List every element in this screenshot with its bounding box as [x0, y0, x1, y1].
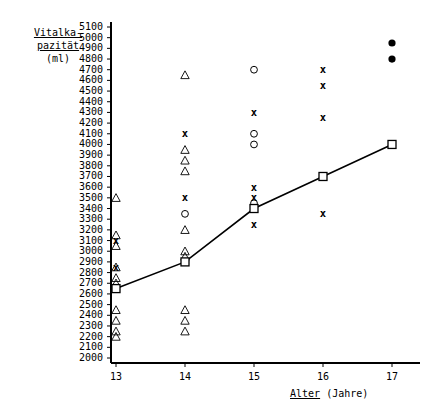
marker-circle	[251, 141, 258, 148]
marker-triangle	[112, 332, 120, 340]
marker-circle	[251, 66, 258, 73]
marker-mean-line	[319, 172, 327, 180]
marker-cross: x	[320, 63, 327, 75]
marker-triangle	[181, 146, 189, 154]
marker-mean-line	[388, 140, 396, 148]
marker-triangle	[112, 306, 120, 314]
marker-filled-dot	[388, 39, 395, 46]
marker-triangle	[112, 316, 120, 324]
scatter-plot-canvas: xxxxxxxxxxxx	[0, 0, 428, 416]
axis-tick-marks	[107, 27, 392, 367]
marker-circle	[182, 210, 189, 217]
marker-triangle	[181, 316, 189, 324]
marker-mean-line	[250, 205, 258, 213]
data-markers: xxxxxxxxxxxx	[112, 39, 396, 340]
mean-trend-line	[116, 144, 392, 288]
marker-mean-line	[112, 285, 120, 293]
marker-circle	[251, 130, 258, 137]
marker-filled-dot	[388, 55, 395, 62]
marker-mean-line	[181, 258, 189, 266]
marker-cross: x	[251, 218, 258, 230]
marker-triangle	[181, 226, 189, 234]
marker-cross: x	[251, 106, 258, 118]
marker-cross: x	[182, 191, 189, 203]
marker-cross: x	[113, 261, 120, 273]
marker-cross: x	[113, 234, 120, 246]
marker-triangle	[112, 194, 120, 202]
marker-cross: x	[320, 207, 327, 219]
marker-triangle	[181, 247, 189, 255]
marker-cross: x	[320, 79, 327, 91]
marker-cross: x	[182, 127, 189, 139]
marker-triangle	[112, 327, 120, 335]
marker-triangle	[181, 327, 189, 335]
marker-triangle	[181, 71, 189, 79]
marker-triangle	[112, 274, 120, 282]
marker-cross: x	[320, 111, 327, 123]
marker-triangle	[181, 156, 189, 164]
plot-axes	[111, 22, 420, 363]
marker-triangle	[181, 306, 189, 314]
marker-triangle	[181, 167, 189, 175]
